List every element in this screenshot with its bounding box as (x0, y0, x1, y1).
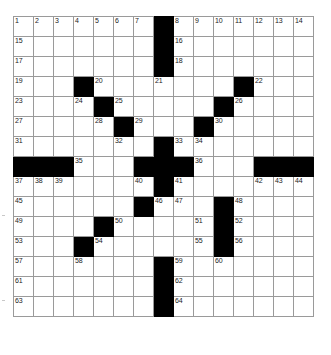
crossword-cell[interactable]: 40 (134, 177, 154, 197)
crossword-cell[interactable]: 64 (174, 297, 194, 317)
crossword-cell[interactable] (34, 217, 54, 237)
crossword-cell[interactable] (34, 237, 54, 257)
crossword-cell[interactable] (114, 37, 134, 57)
crossword-cell[interactable] (254, 257, 274, 277)
crossword-cell[interactable]: 32 (114, 137, 134, 157)
crossword-cell[interactable]: 6 (114, 17, 134, 37)
crossword-cell[interactable] (254, 217, 274, 237)
crossword-cell[interactable] (214, 57, 234, 77)
crossword-cell[interactable] (174, 77, 194, 97)
crossword-cell[interactable] (194, 297, 214, 317)
crossword-cell[interactable]: 53 (14, 237, 34, 257)
crossword-cell[interactable]: 36 (194, 157, 214, 177)
crossword-cell[interactable] (114, 157, 134, 177)
crossword-cell[interactable] (154, 117, 174, 137)
crossword-cell[interactable]: 10 (214, 17, 234, 37)
crossword-cell[interactable] (274, 137, 294, 157)
crossword-cell[interactable] (294, 257, 314, 277)
crossword-cell[interactable]: 58 (74, 257, 94, 277)
crossword-cell[interactable] (194, 197, 214, 217)
crossword-cell[interactable]: 18 (174, 57, 194, 77)
crossword-cell[interactable] (274, 197, 294, 217)
crossword-cell[interactable] (34, 77, 54, 97)
crossword-cell[interactable] (194, 77, 214, 97)
crossword-cell[interactable] (254, 97, 274, 117)
crossword-cell[interactable] (254, 117, 274, 137)
crossword-cell[interactable] (294, 137, 314, 157)
crossword-cell[interactable]: 38 (34, 177, 54, 197)
crossword-cell[interactable]: 21 (154, 77, 174, 97)
crossword-cell[interactable]: 57 (14, 257, 34, 277)
crossword-cell[interactable]: 48 (234, 197, 254, 217)
crossword-cell[interactable] (94, 297, 114, 317)
crossword-cell[interactable] (54, 217, 74, 237)
crossword-cell[interactable] (54, 77, 74, 97)
crossword-cell[interactable] (154, 97, 174, 117)
crossword-cell[interactable]: 17 (14, 57, 34, 77)
crossword-cell[interactable] (94, 37, 114, 57)
crossword-cell[interactable]: 47 (174, 197, 194, 217)
crossword-cell[interactable] (214, 137, 234, 157)
crossword-cell[interactable] (294, 217, 314, 237)
crossword-cell[interactable] (174, 117, 194, 137)
crossword-cell[interactable]: 7 (134, 17, 154, 37)
crossword-cell[interactable]: 26 (234, 97, 254, 117)
crossword-cell[interactable] (154, 237, 174, 257)
crossword-cell[interactable]: 37 (14, 177, 34, 197)
crossword-cell[interactable] (54, 137, 74, 157)
crossword-cell[interactable]: 56 (234, 237, 254, 257)
crossword-cell[interactable] (174, 97, 194, 117)
crossword-cell[interactable] (134, 37, 154, 57)
crossword-cell[interactable] (234, 277, 254, 297)
crossword-cell[interactable] (114, 177, 134, 197)
crossword-cell[interactable] (274, 37, 294, 57)
crossword-cell[interactable] (74, 217, 94, 237)
crossword-cell[interactable] (214, 157, 234, 177)
crossword-cell[interactable] (114, 277, 134, 297)
crossword-cell[interactable] (274, 237, 294, 257)
crossword-cell[interactable] (254, 197, 274, 217)
crossword-cell[interactable] (294, 297, 314, 317)
crossword-cell[interactable] (34, 97, 54, 117)
crossword-cell[interactable] (94, 197, 114, 217)
crossword-cell[interactable] (214, 177, 234, 197)
crossword-cell[interactable] (294, 77, 314, 97)
crossword-cell[interactable] (194, 97, 214, 117)
crossword-cell[interactable] (254, 277, 274, 297)
crossword-cell[interactable] (114, 77, 134, 97)
crossword-cell[interactable]: 24 (74, 97, 94, 117)
crossword-cell[interactable]: 25 (114, 97, 134, 117)
crossword-cell[interactable] (174, 217, 194, 237)
crossword-cell[interactable] (94, 177, 114, 197)
crossword-cell[interactable]: 1 (14, 17, 34, 37)
crossword-cell[interactable]: 63 (14, 297, 34, 317)
crossword-cell[interactable] (34, 57, 54, 77)
crossword-cell[interactable]: 20 (94, 77, 114, 97)
crossword-cell[interactable]: 9 (194, 17, 214, 37)
crossword-cell[interactable] (34, 297, 54, 317)
crossword-cell[interactable] (194, 37, 214, 57)
crossword-cell[interactable] (254, 237, 274, 257)
crossword-cell[interactable] (34, 137, 54, 157)
crossword-cell[interactable] (34, 277, 54, 297)
crossword-cell[interactable] (294, 277, 314, 297)
crossword-cell[interactable] (74, 37, 94, 57)
crossword-cell[interactable]: 3 (54, 17, 74, 37)
crossword-cell[interactable]: 34 (194, 137, 214, 157)
crossword-cell[interactable] (274, 77, 294, 97)
crossword-cell[interactable] (214, 277, 234, 297)
crossword-cell[interactable] (254, 57, 274, 77)
crossword-cell[interactable] (134, 277, 154, 297)
crossword-cell[interactable] (74, 177, 94, 197)
crossword-cell[interactable]: 49 (14, 217, 34, 237)
crossword-cell[interactable] (114, 57, 134, 77)
crossword-cell[interactable] (134, 297, 154, 317)
crossword-cell[interactable]: 27 (14, 117, 34, 137)
crossword-cell[interactable] (274, 297, 294, 317)
crossword-cell[interactable] (74, 137, 94, 157)
crossword-cell[interactable] (74, 57, 94, 77)
crossword-cell[interactable] (254, 297, 274, 317)
crossword-cell[interactable] (34, 197, 54, 217)
crossword-cell[interactable] (294, 117, 314, 137)
crossword-cell[interactable] (94, 137, 114, 157)
